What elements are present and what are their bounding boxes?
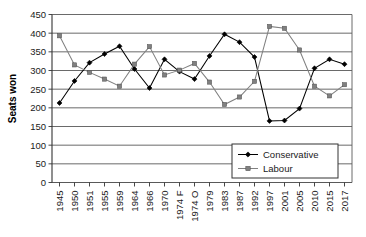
datapoint-labour-15 bbox=[282, 26, 286, 30]
xtick-label-3: 1955 bbox=[99, 191, 110, 212]
datapoint-conservative-19 bbox=[342, 62, 347, 67]
chart-canvas: 050100150200250300350400450Seats won1945… bbox=[0, 0, 366, 237]
legend-label-1: Labour bbox=[263, 163, 293, 174]
xtick-label-12: 1987 bbox=[234, 191, 245, 212]
xtick-label-16: 2005 bbox=[294, 191, 305, 212]
series-labour bbox=[57, 24, 346, 106]
xtick-label-13: 1992 bbox=[249, 191, 260, 212]
datapoint-conservative-3 bbox=[102, 52, 107, 57]
datapoint-labour-7 bbox=[162, 73, 166, 77]
ytick-label-200: 200 bbox=[30, 102, 46, 113]
xtick-label-8: 1974 F bbox=[174, 190, 185, 220]
datapoint-labour-8 bbox=[177, 68, 181, 72]
ytick-label-0: 0 bbox=[41, 177, 46, 188]
datapoint-labour-18 bbox=[327, 94, 331, 98]
y-axis-title: Seats won bbox=[7, 74, 18, 123]
ytick-label-100: 100 bbox=[30, 140, 46, 151]
datapoint-labour-12 bbox=[237, 95, 241, 99]
datapoint-labour-9 bbox=[192, 61, 196, 65]
datapoint-labour-14 bbox=[267, 24, 271, 28]
ytick-label-450: 450 bbox=[30, 9, 46, 20]
ytick-label-50: 50 bbox=[35, 158, 46, 169]
datapoint-labour-5 bbox=[132, 62, 136, 66]
xtick-label-19: 2017 bbox=[339, 191, 350, 212]
datapoint-labour-13 bbox=[252, 79, 256, 83]
xtick-label-11: 1983 bbox=[219, 191, 230, 212]
xtick-label-4: 1959 bbox=[114, 191, 125, 212]
datapoint-labour-17 bbox=[312, 84, 316, 88]
datapoint-labour-16 bbox=[297, 48, 301, 52]
seats-won-line-chart: 050100150200250300350400450Seats won1945… bbox=[0, 0, 366, 237]
legend-label-0: Conservative bbox=[263, 149, 318, 160]
datapoint-conservative-14 bbox=[267, 118, 272, 123]
xtick-label-0: 1945 bbox=[54, 191, 65, 212]
xtick-label-6: 1966 bbox=[144, 191, 155, 212]
ytick-label-300: 300 bbox=[30, 65, 46, 76]
ytick-label-350: 350 bbox=[30, 46, 46, 57]
x-axis-group: 194519501951195519591964196619701974 F19… bbox=[54, 183, 350, 222]
xtick-label-14: 1997 bbox=[264, 191, 275, 212]
datapoint-labour-11 bbox=[222, 102, 226, 106]
xtick-label-1: 1950 bbox=[69, 191, 80, 212]
xtick-label-17: 2010 bbox=[309, 191, 320, 212]
datapoint-conservative-18 bbox=[327, 57, 332, 62]
datapoint-labour-0 bbox=[57, 34, 61, 38]
xtick-label-2: 1951 bbox=[84, 191, 95, 212]
datapoint-conservative-17 bbox=[312, 66, 317, 71]
datapoint-labour-6 bbox=[147, 45, 151, 49]
ytick-label-400: 400 bbox=[30, 28, 46, 39]
legend: ConservativeLabour bbox=[232, 144, 338, 178]
xtick-label-5: 1964 bbox=[129, 191, 140, 212]
datapoint-labour-4 bbox=[117, 84, 121, 88]
datapoint-labour-2 bbox=[87, 70, 91, 74]
ytick-label-150: 150 bbox=[30, 121, 46, 132]
datapoint-labour-19 bbox=[342, 83, 346, 87]
xtick-label-15: 2001 bbox=[279, 191, 290, 212]
xtick-label-18: 2015 bbox=[324, 191, 335, 212]
ytick-label-250: 250 bbox=[30, 84, 46, 95]
xtick-label-9: 1974 O bbox=[189, 191, 200, 222]
series-line-labour bbox=[60, 26, 345, 104]
xtick-label-7: 1970 bbox=[159, 191, 170, 212]
xtick-label-10: 1979 bbox=[204, 191, 215, 212]
datapoint-labour-1 bbox=[72, 63, 76, 67]
datapoint-labour-10 bbox=[207, 80, 211, 84]
legend-marker-1 bbox=[246, 166, 250, 170]
datapoint-labour-3 bbox=[102, 77, 106, 81]
